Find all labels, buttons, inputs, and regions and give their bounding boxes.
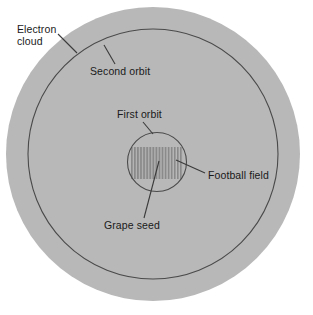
electron-cloud-label-line2: cloud [17, 35, 43, 47]
football-field-label: Football field [208, 170, 269, 182]
first-orbit-label: First orbit [117, 109, 162, 121]
football-field-group [131, 147, 183, 179]
scale-comparison-diagram: Electroncloud Second orbit First orbit F… [0, 0, 313, 315]
electron-cloud-label-line1: Electron [17, 23, 56, 35]
diagram-canvas [0, 0, 313, 315]
grape-seed-label: Grape seed [104, 220, 160, 232]
football-field-rect [131, 147, 183, 179]
second-orbit-label: Second orbit [90, 66, 150, 78]
electron-cloud-label: Electroncloud [17, 24, 56, 47]
